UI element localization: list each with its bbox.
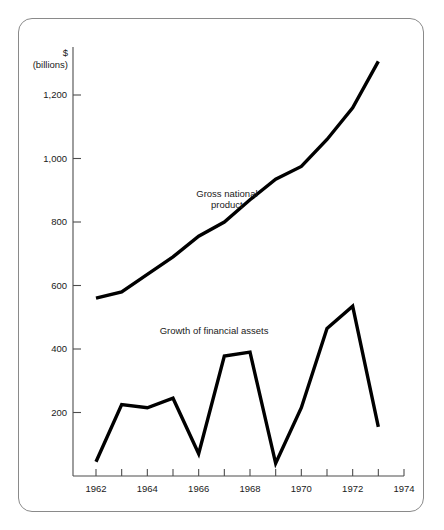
axis-ticks: [73, 95, 404, 476]
y-axis-tick-label: 1,000: [43, 153, 67, 164]
x-axis-tick-label: 1972: [342, 483, 363, 494]
series-label-financial-assets: Growth of financial assets: [160, 325, 269, 336]
x-axis-tick-label: 1974: [393, 483, 414, 494]
chart-page: 2004006008001,0001,200 19621964196619681…: [0, 0, 444, 530]
x-axis-tick-label: 1966: [188, 483, 209, 494]
x-axis-tick-label: 1970: [291, 483, 312, 494]
chart-svg: 2004006008001,0001,200 19621964196619681…: [0, 0, 444, 530]
series-line-gnp: [96, 61, 378, 298]
axes: [73, 47, 404, 476]
data-series: [96, 61, 378, 463]
y-axis-tick-label: 1,200: [43, 89, 67, 100]
x-axis-tick-label: 1964: [137, 483, 158, 494]
x-axis-tick-labels: 1962196419661968197019721974: [85, 483, 414, 494]
y-axis-title: $(billions): [33, 47, 69, 70]
y-axis-title-currency: $: [63, 47, 69, 58]
y-axis-title-units: (billions): [33, 59, 68, 70]
y-axis-tick-label: 400: [51, 343, 67, 354]
series-label-gnp-line2: product: [211, 199, 243, 210]
y-axis-tick-label: 200: [51, 407, 67, 418]
y-axis-tick-label: 800: [51, 216, 67, 227]
x-axis-tick-label: 1962: [85, 483, 106, 494]
series-annotations: Gross nationalproductGrowth of financial…: [160, 188, 269, 336]
y-axis-tick-labels: 2004006008001,0001,200: [43, 89, 67, 418]
series-label-gnp: Gross national: [196, 188, 257, 199]
y-axis-tick-label: 600: [51, 280, 67, 291]
x-axis-tick-label: 1968: [239, 483, 260, 494]
plot-area: 2004006008001,0001,200 19621964196619681…: [0, 0, 444, 530]
